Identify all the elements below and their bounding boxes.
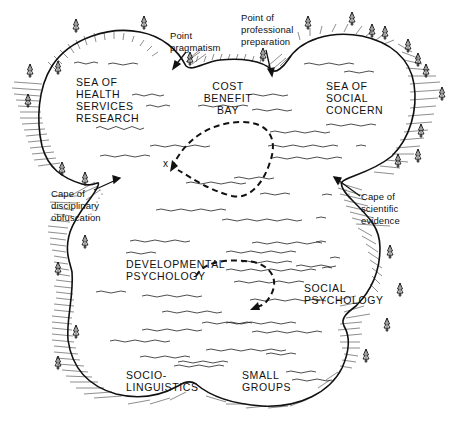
point-pragmatism-label: Point pragmatism — [170, 30, 221, 54]
developmental-psychology-label: DEVELOPMENTAL PSYCHOLOGY — [126, 258, 225, 282]
sea-social-concern-label: SEA OF SOCIAL CONCERN — [326, 80, 383, 116]
small-groups-label: SMALL GROUPS — [242, 369, 291, 393]
social-psychology-label: SOCIAL PSYCHOLOGY — [304, 282, 384, 306]
sociolinguistics-label: SOCIO- LINGUISTICS — [126, 369, 199, 393]
cape-scientific-evidence-label: Cape of scientific evidence — [361, 191, 400, 227]
sea-health-services-research-label: SEA OF HEALTH SERVICES RESEARCH — [76, 76, 139, 124]
cape-disciplinary-obfuscation-label: Cape of disciplinary obfuscation — [51, 188, 101, 224]
arrow-icon — [250, 302, 260, 310]
x-marker: x — [163, 158, 168, 170]
cape-stipple — [88, 185, 349, 218]
arrow-icon — [170, 160, 178, 172]
cost-benefit-bay-label: COST BENEFIT BAY — [198, 80, 258, 116]
dashed-route-upper — [172, 122, 273, 197]
point-professional-preparation-label: Point of professional preparation — [241, 12, 293, 48]
